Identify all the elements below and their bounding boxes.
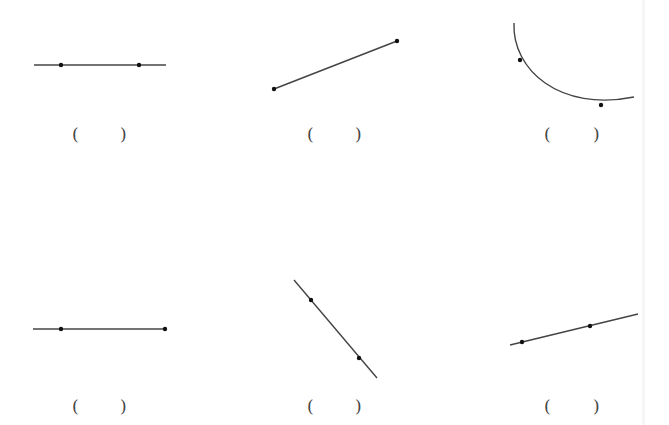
point-dot xyxy=(588,324,592,328)
answer-paren-open: ( xyxy=(544,398,551,415)
point-dot xyxy=(59,327,63,331)
point-dot xyxy=(599,103,603,107)
line-stroke xyxy=(510,314,638,345)
point-dot xyxy=(163,327,167,331)
answer-paren-open: ( xyxy=(307,126,314,143)
segment-stroke xyxy=(274,41,397,89)
point-dot xyxy=(272,87,276,91)
answer-paren-close: ) xyxy=(593,398,600,415)
figure-line-6 xyxy=(510,314,638,345)
answer-paren-open: ( xyxy=(544,126,551,143)
answer-paren-close: ) xyxy=(120,398,127,415)
figure-segment-2 xyxy=(272,39,399,91)
answer-paren-open: ( xyxy=(72,398,79,415)
point-dot xyxy=(518,58,522,62)
geometry-canvas xyxy=(0,0,669,425)
figure-ray-4 xyxy=(33,327,167,331)
line-stroke xyxy=(294,280,377,378)
arc-stroke xyxy=(514,23,634,100)
point-dot xyxy=(59,63,63,67)
answer-paren-close: ) xyxy=(593,126,600,143)
answer-paren-open: ( xyxy=(72,126,79,143)
point-dot xyxy=(137,63,141,67)
figure-line-1 xyxy=(34,63,166,67)
figure-line-5 xyxy=(294,280,377,378)
figure-arc-3 xyxy=(514,23,634,107)
answer-paren-open: ( xyxy=(307,398,314,415)
answer-paren-close: ) xyxy=(355,398,362,415)
point-dot xyxy=(520,340,524,344)
answer-paren-close: ) xyxy=(355,126,362,143)
point-dot xyxy=(309,298,313,302)
point-dot xyxy=(357,356,361,360)
point-dot xyxy=(395,39,399,43)
answer-paren-close: ) xyxy=(120,126,127,143)
